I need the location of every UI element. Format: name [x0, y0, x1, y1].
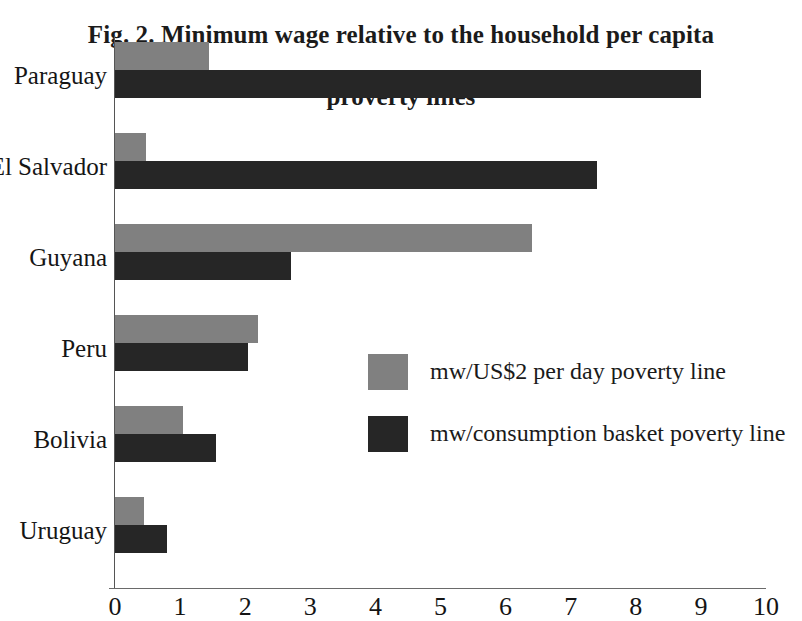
plot-area: Paraguay El Salvador Guyana Peru Bolivia…: [0, 0, 802, 621]
bar-paraguay-consumption-basket: [115, 70, 701, 98]
bar-peru-consumption-basket: [115, 343, 248, 371]
x-tick-2: 2: [215, 592, 275, 621]
x-axis-line: [114, 588, 766, 589]
x-tick-9: 9: [671, 592, 731, 621]
x-tick-5: 5: [411, 592, 471, 621]
y-axis-label-paraguay: Paraguay: [0, 62, 107, 90]
x-tick-6: 6: [476, 592, 536, 621]
bar-paraguay-us2: [115, 42, 209, 70]
x-tick-7: 7: [541, 592, 601, 621]
legend-label-consumption-basket: mw/consumption basket poverty line: [430, 414, 785, 452]
bar-guyana-consumption-basket: [115, 252, 291, 280]
bar-el-salvador-us2: [115, 133, 146, 161]
bar-guyana-us2: [115, 224, 532, 252]
x-axis-origin-tick: [109, 588, 120, 589]
bar-peru-us2: [115, 315, 258, 343]
bar-uruguay-consumption-basket: [115, 525, 167, 553]
y-axis-label-el-salvador: El Salvador: [0, 153, 107, 181]
bar-bolivia-us2: [115, 406, 183, 434]
legend-swatch-us2: [368, 354, 408, 390]
x-tick-8: 8: [606, 592, 666, 621]
y-axis-label-guyana: Guyana: [0, 244, 107, 272]
bar-bolivia-consumption-basket: [115, 434, 216, 462]
legend-swatch-consumption-basket: [368, 416, 408, 452]
y-axis-label-bolivia: Bolivia: [0, 426, 107, 454]
legend-label-us2: mw/US$2 per day poverty line: [430, 352, 726, 390]
x-tick-3: 3: [280, 592, 340, 621]
y-axis-label-uruguay: Uruguay: [0, 517, 107, 545]
x-tick-0: 0: [85, 592, 145, 621]
x-tick-10: 10: [736, 592, 796, 621]
x-tick-1: 1: [150, 592, 210, 621]
bar-el-salvador-consumption-basket: [115, 161, 597, 189]
bar-uruguay-us2: [115, 497, 144, 525]
y-axis-label-peru: Peru: [0, 335, 107, 363]
x-tick-4: 4: [345, 592, 405, 621]
